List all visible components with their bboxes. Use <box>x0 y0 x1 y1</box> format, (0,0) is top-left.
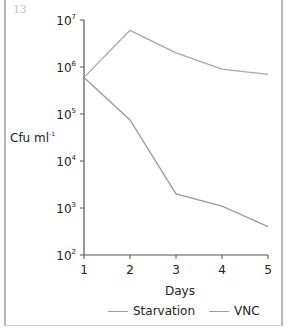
line-chart: 10210310410510610712345 <box>0 0 287 329</box>
y-axis-label: Cfu ml-1 <box>10 130 55 145</box>
legend: Starvation VNC <box>108 304 268 318</box>
legend-item-vnc: VNC <box>209 304 260 318</box>
y-tick-label: 104 <box>56 154 76 169</box>
legend-swatch-starvation <box>108 311 128 312</box>
axes: 10210310410510610712345 <box>56 13 272 277</box>
y-tick-label: 103 <box>56 201 76 216</box>
x-tick-label: 2 <box>126 263 134 277</box>
legend-swatch-vnc <box>209 311 229 312</box>
x-tick-label: 4 <box>218 263 226 277</box>
y-tick-label: 107 <box>56 13 76 28</box>
x-tick-label: 3 <box>172 263 180 277</box>
series-line-vnc <box>84 77 268 226</box>
series-line-starvation <box>84 30 268 77</box>
y-tick-label: 102 <box>56 248 76 263</box>
series-lines <box>84 30 268 226</box>
legend-label: Starvation <box>133 304 195 318</box>
y-tick-label: 105 <box>56 107 76 122</box>
x-tick-label: 5 <box>264 263 272 277</box>
x-tick-label: 1 <box>80 263 88 277</box>
legend-item-starvation: Starvation <box>108 304 195 318</box>
x-axis-label: Days <box>160 284 200 298</box>
legend-label: VNC <box>234 304 260 318</box>
y-tick-label: 106 <box>56 60 76 75</box>
